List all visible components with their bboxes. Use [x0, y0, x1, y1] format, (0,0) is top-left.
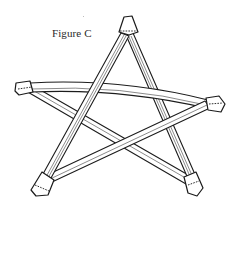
tip-cap-bottom-right — [184, 172, 203, 196]
tip-cap-right — [206, 96, 225, 112]
tip-cap-left — [15, 81, 33, 95]
stick-top-to-bottom-right — [126, 33, 197, 181]
tip-cap-top — [119, 16, 138, 35]
star-illustration — [0, 0, 236, 253]
